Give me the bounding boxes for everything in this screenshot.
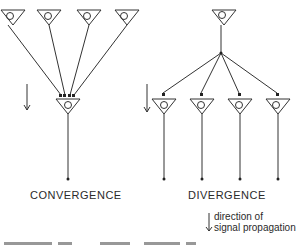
diagram-graphic	[0, 0, 296, 245]
convergence-input-neurons	[1, 10, 139, 25]
convergence-output-neuron	[56, 99, 80, 179]
legend-line-1: direction of	[214, 211, 263, 222]
convergence-divergence-diagram: CONVERGENCE DIVERGENCE direction of sign…	[0, 0, 296, 245]
convergence-arrow-icon	[24, 84, 30, 110]
legend-down-arrow-icon	[206, 213, 212, 231]
convergence-label: CONVERGENCE	[30, 189, 122, 201]
divergence-arrow-icon	[144, 84, 150, 112]
divergence-label: DIVERGENCE	[188, 189, 266, 201]
divergence-input-neuron	[212, 10, 236, 53]
divergence-output-neurons	[152, 99, 290, 179]
legend-line-2: signal propagation	[214, 222, 296, 233]
convergence-axons	[8, 25, 127, 95]
divergence-axons	[163, 53, 277, 93]
